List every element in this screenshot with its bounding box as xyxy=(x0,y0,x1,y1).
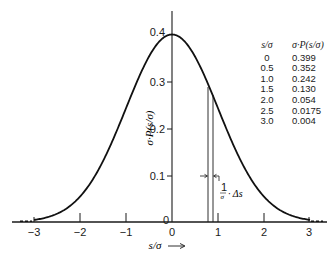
y-tick-label: 0.3 xyxy=(150,76,165,88)
y-axis-label: σ·P(s/σ) xyxy=(143,110,156,145)
table-header: s/σ σ·P(s/σ) xyxy=(248,40,335,51)
table-header-col1: s/σ xyxy=(248,40,286,51)
table-cell: 0.054 xyxy=(286,95,335,106)
y-tick-label: 0 xyxy=(163,214,169,226)
table-row: 3.0 0.004 xyxy=(248,116,335,127)
table-cell: 3.0 xyxy=(248,116,286,127)
table-row: 2.0 0.054 xyxy=(248,95,335,106)
y-tick-label: 0.1 xyxy=(150,170,165,182)
x-tick-label: 1 xyxy=(215,226,221,238)
y-tick-label: 0.4 xyxy=(150,26,165,38)
x-tick-label: −1 xyxy=(120,226,133,238)
table-cell: 0.004 xyxy=(286,116,335,127)
x-tick-label: 2 xyxy=(261,226,267,238)
x-axis-arrow-icon xyxy=(168,244,185,249)
strip-width-arrows-icon xyxy=(200,174,219,181)
x-tick-label: −2 xyxy=(74,226,87,238)
x-axis-label: s/σ xyxy=(149,239,162,251)
strip-label-frac-den: σ xyxy=(221,193,225,201)
x-tick-label: 3 xyxy=(306,226,312,238)
strip-label-frac-num: 1 xyxy=(221,181,227,193)
y-ticks xyxy=(167,82,172,176)
strip-label-delta-s: · Δs xyxy=(228,188,243,199)
table-header-col2: σ·P(s/σ) xyxy=(286,40,335,51)
table-cell: 2.0 xyxy=(248,95,286,106)
x-tick-label: −3 xyxy=(28,226,41,238)
x-tick-label: 0 xyxy=(169,226,175,238)
values-table: s/σ σ·P(s/σ) 0 0.399 0.5 0.352 1.0 0.242… xyxy=(248,40,335,127)
